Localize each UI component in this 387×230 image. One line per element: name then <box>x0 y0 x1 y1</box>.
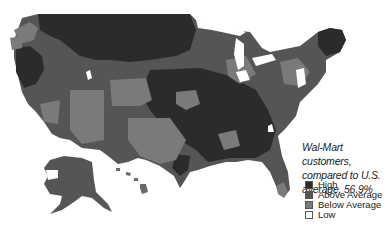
legend-item-below-average: Below Average <box>305 200 382 210</box>
legend-swatch-low <box>305 211 313 219</box>
hawaii <box>116 168 148 194</box>
legend-swatch-below-average <box>305 201 313 209</box>
legend-swatch-high <box>305 181 313 189</box>
caption-line-1: Wal-Mart customers, <box>302 140 387 168</box>
legend-item-low: Low <box>305 210 382 220</box>
map-legend: High Above Average Below Average Low <box>305 180 382 220</box>
legend-label-low: Low <box>318 210 335 220</box>
legend-swatch-above-average <box>305 191 313 199</box>
alaska <box>44 156 112 214</box>
